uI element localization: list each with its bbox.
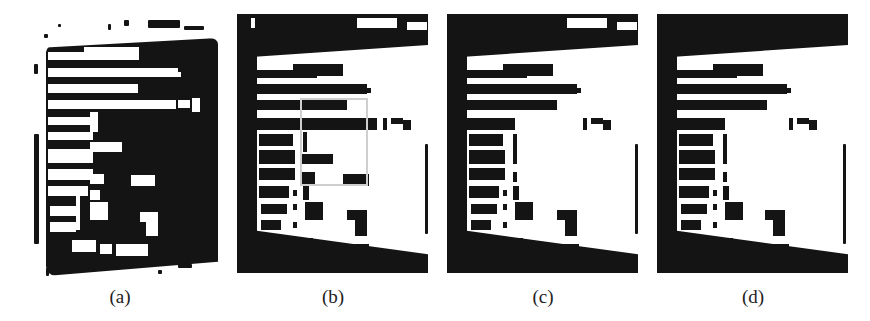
panel-c <box>447 14 638 273</box>
caption-d: (d) <box>723 286 783 308</box>
roi-box <box>300 98 368 186</box>
panel-b <box>237 14 428 273</box>
caption-b: (b) <box>303 286 363 308</box>
caption-c: (c) <box>513 286 573 308</box>
panel-d <box>657 14 848 273</box>
panel-a <box>28 14 224 276</box>
caption-a: (a) <box>90 286 150 308</box>
